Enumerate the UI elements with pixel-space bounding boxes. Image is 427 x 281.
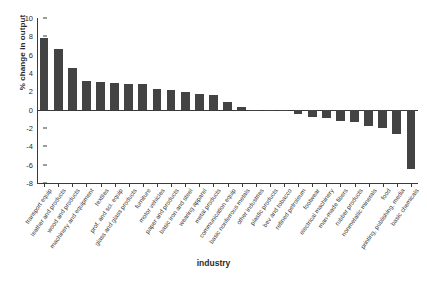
x-tick-label: food xyxy=(379,187,392,201)
y-tick-label: -6 xyxy=(26,160,33,169)
bar xyxy=(378,110,387,128)
x-tick-mark xyxy=(213,183,214,187)
bar xyxy=(336,110,345,121)
bar xyxy=(350,110,359,122)
y-tick-label: -4 xyxy=(26,142,33,151)
bar xyxy=(294,110,303,115)
bar xyxy=(40,38,49,110)
y-tick-label: 2 xyxy=(29,87,33,96)
bar xyxy=(167,90,176,110)
x-tick-mark xyxy=(298,183,299,187)
x-tick-mark xyxy=(185,183,186,187)
bar-series xyxy=(37,18,418,183)
x-tick-mark xyxy=(129,183,130,187)
chart-root: % change in output 1086420-2-4-6-8 trans… xyxy=(0,0,427,281)
bar xyxy=(153,89,162,110)
bar xyxy=(322,110,331,119)
bar xyxy=(82,81,91,109)
bar xyxy=(223,102,232,110)
x-tick-mark xyxy=(199,183,200,187)
bar xyxy=(364,110,373,126)
bar xyxy=(68,68,77,109)
bar xyxy=(251,110,260,111)
x-tick-mark xyxy=(340,183,341,187)
x-tick-mark xyxy=(44,183,45,187)
x-tick-mark xyxy=(72,183,73,187)
bar xyxy=(407,110,416,170)
y-tick-label: 4 xyxy=(29,69,33,78)
x-tick-mark xyxy=(228,183,229,187)
y-axis-tick-labels: 1086420-2-4-6-8 xyxy=(10,18,33,183)
y-tick-label: 10 xyxy=(25,14,33,23)
x-tick-mark xyxy=(312,183,313,187)
x-tick-mark xyxy=(383,183,384,187)
x-tick-mark xyxy=(157,183,158,187)
y-tick-label: 8 xyxy=(29,32,33,41)
x-tick-mark xyxy=(326,183,327,187)
x-tick-mark xyxy=(256,183,257,187)
x-axis-title: industry xyxy=(0,258,427,268)
x-tick-mark xyxy=(411,183,412,187)
x-tick-mark xyxy=(369,183,370,187)
bar xyxy=(195,94,204,110)
x-tick-mark xyxy=(270,183,271,187)
bar xyxy=(138,84,147,110)
x-axis-tick-labels: transport equipleather and productswood … xyxy=(37,187,418,259)
x-tick-mark xyxy=(242,183,243,187)
bar xyxy=(265,110,274,111)
plot-area xyxy=(37,18,418,183)
x-tick-mark xyxy=(355,183,356,187)
x-tick-mark xyxy=(86,183,87,187)
y-tick-label: -8 xyxy=(26,179,33,188)
bar xyxy=(110,83,119,110)
bar xyxy=(96,82,105,110)
y-tick-label: 0 xyxy=(29,105,33,114)
bar xyxy=(280,110,289,111)
x-tick-mark xyxy=(101,183,102,187)
bar xyxy=(308,110,317,117)
x-tick-mark xyxy=(58,183,59,187)
bar xyxy=(237,107,246,110)
y-tick-label: 6 xyxy=(29,50,33,59)
x-tick-mark xyxy=(397,183,398,187)
x-tick-mark xyxy=(143,183,144,187)
y-tick-label: -2 xyxy=(26,124,33,133)
bar xyxy=(181,92,190,110)
bar xyxy=(54,49,63,110)
x-tick-mark xyxy=(171,183,172,187)
bar xyxy=(392,110,401,135)
bar xyxy=(124,84,133,110)
x-tick-mark xyxy=(115,183,116,187)
bar xyxy=(209,95,218,109)
x-tick-mark xyxy=(284,183,285,187)
